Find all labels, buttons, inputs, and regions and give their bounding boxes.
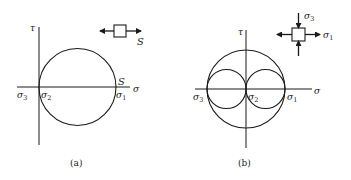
caption-a: (a)	[70, 158, 82, 168]
stress-element-uniaxial: S	[100, 25, 144, 47]
element-square	[292, 28, 305, 41]
sigma3-label: σ3	[193, 92, 203, 104]
element-s-label: S	[137, 36, 144, 47]
stress-element-biaxial: σ3 σ1	[277, 11, 333, 56]
point-s-label: S	[118, 76, 125, 87]
element-square	[114, 25, 126, 37]
tau-axis-label: τ	[30, 23, 36, 33]
sigma1-label: σ1	[116, 90, 126, 102]
sigma2-label: σ2	[41, 90, 51, 102]
tau-axis-label: τ	[238, 27, 244, 37]
sigma-axis-label: σ	[133, 84, 140, 94]
sigma-axis-label: σ	[314, 86, 321, 96]
mohr-circle-figure: τ σ σ3 σ2 σ1 S S (a) τ σ	[0, 0, 351, 180]
caption-b: (b)	[238, 158, 251, 168]
panel-a: τ σ σ3 σ2 σ1 S S (a)	[17, 23, 144, 168]
sigma1-label: σ1	[287, 92, 297, 104]
panel-b: τ σ σ3 σ2 σ1 σ3 σ1 (b	[193, 11, 333, 168]
element-sigma1-label: σ1	[323, 30, 333, 42]
element-sigma3-label: σ3	[304, 11, 314, 23]
sigma2-label: σ2	[248, 92, 258, 104]
sigma3-label: σ3	[17, 90, 27, 102]
